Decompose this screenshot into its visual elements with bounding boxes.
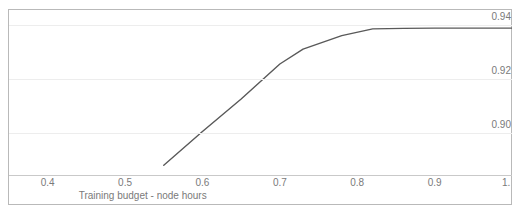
x-axis-title: Training budget - node hours	[79, 190, 207, 201]
line-chart: 0.900.920.94 0.40.50.60.70.80.91. Traini…	[0, 0, 521, 216]
x-tick-label: 1.	[502, 177, 510, 188]
series-line-accuracy	[9, 10, 512, 176]
series-polyline	[164, 28, 512, 165]
x-tick-label: 0.8	[350, 177, 364, 188]
y-tick-label: 0.94	[492, 12, 511, 22]
x-tick-label: 0.5	[118, 177, 132, 188]
x-tick-label: 0.6	[196, 177, 210, 188]
x-tick-label: 0.9	[428, 177, 442, 188]
clipped-title	[0, 0, 521, 7]
y-tick-label: 0.92	[492, 66, 511, 76]
y-tick-label: 0.90	[492, 120, 511, 130]
gridline-y	[9, 133, 512, 134]
gridline-y	[9, 79, 512, 80]
gridline-y	[9, 25, 512, 26]
x-tick-label: 0.4	[41, 177, 55, 188]
x-tick-label: 0.7	[273, 177, 287, 188]
plot-area	[9, 10, 512, 176]
